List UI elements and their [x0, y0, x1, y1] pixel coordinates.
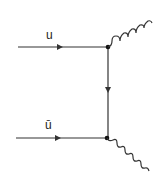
photon-line-bottom [107, 138, 149, 171]
arrow-right-icon [55, 135, 61, 141]
photon-line-top [108, 21, 152, 47]
feynman-diagram [0, 0, 163, 179]
arrow-down-icon [105, 87, 111, 93]
label-ubar: ū [45, 118, 52, 132]
label-u: u [46, 28, 53, 42]
arrow-right-icon [57, 44, 63, 50]
